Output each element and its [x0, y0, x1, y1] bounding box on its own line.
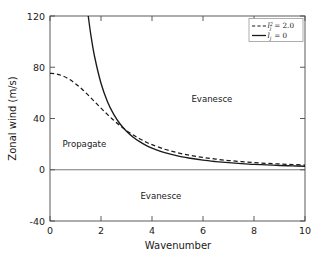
- x-tick-label: 8: [251, 225, 257, 236]
- x-tick-label: 2: [98, 225, 104, 236]
- x-tick-label: 0: [47, 225, 53, 236]
- annotation-evanesce-upper: Evanesce: [191, 94, 232, 104]
- legend[interactable]: l2j = 2.0 lj = 0: [249, 19, 303, 42]
- annotation-evanesce-lower: Evanesce: [140, 191, 181, 201]
- x-tick-label: 4: [149, 225, 155, 236]
- y-tick-label: 120: [27, 11, 45, 22]
- y-tick-label: 0: [39, 164, 45, 175]
- y-tick-label: 40: [33, 113, 45, 124]
- x-tick-label: 10: [299, 225, 311, 236]
- y-axis-title: Zonal wind (m/s): [7, 76, 18, 160]
- chart-figure: 120 80 40 0 -40 0 2 4 6 8 10 Wavenumber …: [0, 0, 327, 263]
- x-axis-title: Wavenumber: [145, 240, 212, 251]
- x-tick-label: 6: [200, 225, 206, 236]
- y-tick-label: -40: [29, 216, 45, 227]
- annotation-propagate: Propagate: [63, 139, 107, 149]
- y-tick-labels: 120 80 40 0 -40: [27, 11, 45, 227]
- chart-svg: 120 80 40 0 -40 0 2 4 6 8 10 Wavenumber …: [0, 0, 327, 263]
- y-tick-label: 80: [33, 62, 45, 73]
- x-tick-labels: 0 2 4 6 8 10: [47, 225, 311, 236]
